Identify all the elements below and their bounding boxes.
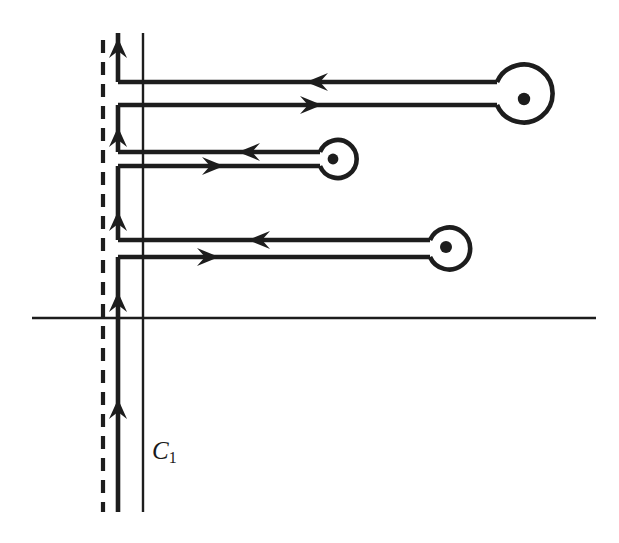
contour-label-base: C (152, 437, 169, 464)
pole-1-dot (518, 93, 530, 105)
pole-2-dot (328, 154, 339, 165)
contour-diagram-canvas (0, 0, 619, 543)
pole-dots-group (328, 93, 531, 253)
contour-label-subscript: 1 (169, 449, 177, 466)
pole-3-dot (440, 241, 452, 253)
contour-diagram: C1 (0, 0, 619, 543)
contour-path-c1 (118, 33, 553, 512)
contour-label: C1 (152, 437, 177, 467)
